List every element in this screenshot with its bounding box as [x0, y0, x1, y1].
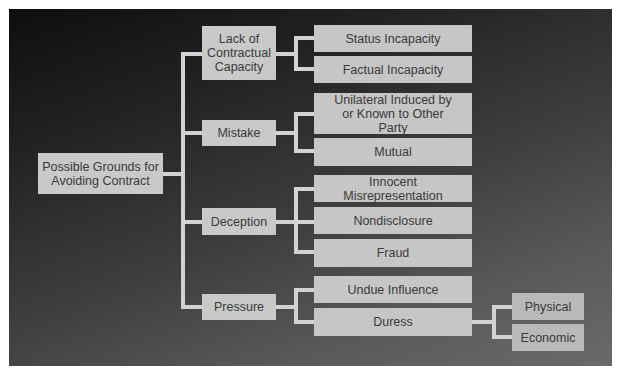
connector-root [163, 172, 183, 176]
connector-duress-economic [492, 335, 512, 339]
connector-capacity-status [294, 36, 314, 40]
node-label: Undue Influence [347, 283, 438, 297]
connector-deception-bracket [294, 187, 298, 254]
connector-main-spine [181, 52, 185, 309]
connector-mistake-out [276, 131, 296, 135]
node-label: Factual Incapacity [343, 63, 444, 77]
node-label: Deception [211, 215, 267, 229]
node-label: Mutual [374, 145, 412, 159]
connector-pressure-out [276, 305, 296, 309]
connector-spine-mistake [181, 131, 202, 135]
node-status-incapacity: Status Incapacity [314, 25, 472, 52]
node-factual-incapacity: Factual Incapacity [314, 56, 472, 83]
connector-mistake-bracket [294, 112, 298, 153]
connector-spine-deception [181, 220, 202, 224]
node-pressure: Pressure [202, 294, 276, 320]
node-lack-of-contractual-capacity: Lack of Contractual Capacity [202, 26, 276, 80]
connector-capacity-out [276, 52, 296, 56]
connector-pressure-bracket [294, 288, 298, 324]
node-label: Duress [373, 315, 413, 329]
node-innocent-misrepresentation: Innocent Misrepresentation [314, 175, 472, 202]
connector-deception-innocent [294, 187, 314, 191]
node-mistake: Mistake [202, 120, 276, 146]
node-label: Innocent Misrepresentation [318, 175, 468, 203]
node-economic-duress: Economic [512, 324, 584, 351]
node-duress: Duress [314, 308, 472, 336]
node-physical-duress: Physical [512, 293, 584, 320]
connector-capacity-bracket [294, 36, 298, 71]
node-fraud: Fraud [314, 239, 472, 267]
connector-capacity-factual [294, 67, 314, 71]
connector-duress-bracket [492, 305, 496, 339]
connector-duress-physical [492, 305, 512, 309]
node-label: Nondisclosure [353, 214, 432, 228]
node-mutual-mistake: Mutual [314, 138, 472, 166]
node-deception: Deception [202, 208, 276, 235]
node-unilateral-mistake: Unilateral Induced by or Known to Other … [314, 93, 472, 134]
connector-spine-capacity [181, 52, 202, 56]
node-label: Status Incapacity [345, 32, 440, 46]
connector-pressure-duress [294, 320, 314, 324]
connector-mistake-unilateral [294, 112, 314, 116]
node-label: Fraud [377, 246, 410, 260]
node-nondisclosure: Nondisclosure [314, 207, 472, 234]
connector-spine-pressure [181, 305, 202, 309]
connector-mistake-mutual [294, 149, 314, 153]
node-label: Mistake [217, 126, 260, 140]
node-root-label: Possible Grounds for Avoiding Contract [42, 160, 159, 188]
node-undue-influence: Undue Influence [314, 276, 472, 303]
node-label: Physical [525, 300, 572, 314]
node-label: Pressure [214, 300, 264, 314]
node-label: Lack of Contractual Capacity [207, 32, 271, 74]
connector-deception-fraud [294, 250, 314, 254]
connector-pressure-undue [294, 288, 314, 292]
node-label: Unilateral Induced by or Known to Other … [328, 93, 458, 135]
node-root: Possible Grounds for Avoiding Contract [38, 153, 163, 194]
node-label: Economic [521, 331, 576, 345]
